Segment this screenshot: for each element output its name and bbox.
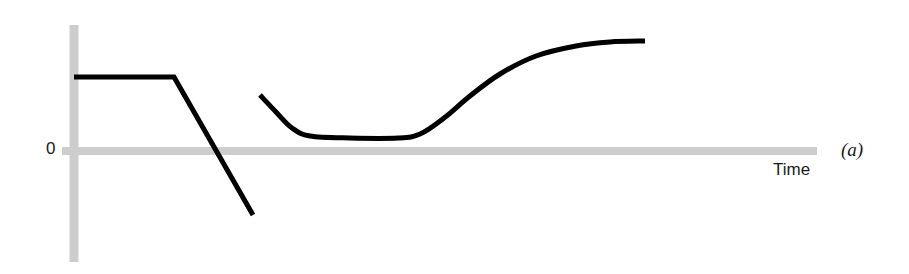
plot-area: [0, 0, 909, 274]
series-step-then-decline: [74, 77, 253, 215]
figure-container: 0 Time (a): [0, 0, 909, 274]
y-axis-zero-label: 0: [46, 140, 55, 157]
x-axis-label: Time: [773, 161, 810, 178]
panel-label: (a): [841, 140, 863, 159]
series-dip-then-recovery: [260, 41, 645, 138]
